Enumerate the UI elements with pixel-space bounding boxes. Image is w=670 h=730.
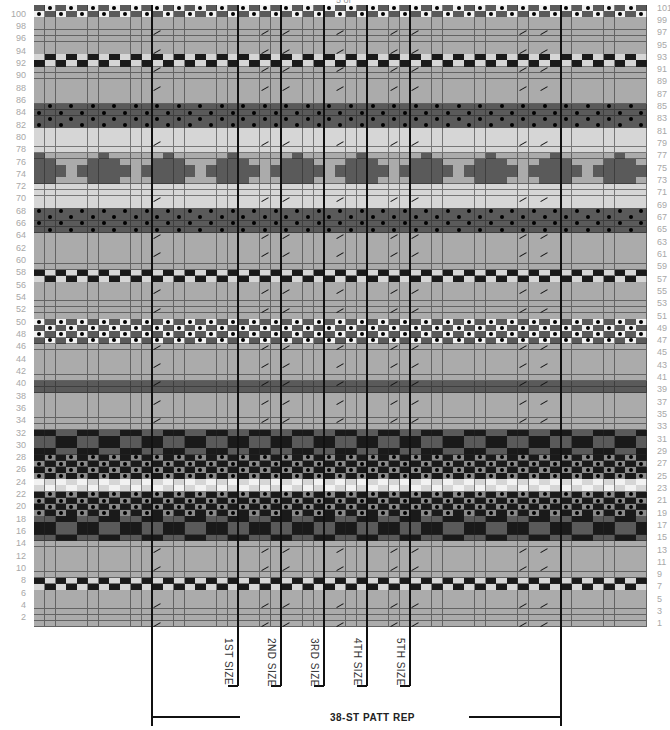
contrast-stitch-dot-icon (371, 104, 375, 108)
contrast-stitch-dot-icon (575, 221, 579, 225)
contrast-stitch-dot-icon (478, 505, 482, 509)
decrease-slash-icon (336, 548, 344, 553)
row-number-label: 22 (6, 490, 26, 499)
decrease-slash-icon (336, 603, 344, 608)
row-number-label: 45 (657, 348, 670, 357)
row-number-label: 58 (6, 268, 26, 277)
contrast-stitch-dot-icon (371, 326, 375, 330)
decrease-slash-icon (261, 234, 269, 239)
contrast-stitch-dot-icon (327, 117, 331, 121)
chart-cell (249, 621, 260, 628)
chart-cell (34, 621, 45, 628)
row-number-label: 35 (657, 410, 670, 419)
decrease-slash-icon (390, 418, 398, 423)
contrast-stitch-dot-icon (521, 228, 525, 232)
contrast-stitch-dot-icon (360, 209, 364, 213)
contrast-stitch-dot-icon (629, 326, 633, 330)
decrease-slash-icon (154, 86, 162, 91)
decrease-slash-icon (154, 400, 162, 405)
contrast-stitch-dot-icon (564, 338, 568, 342)
decrease-slash-icon (519, 252, 527, 257)
contrast-stitch-dot-icon (575, 209, 579, 213)
contrast-stitch-dot-icon (618, 511, 622, 515)
contrast-stitch-dot-icon (629, 505, 633, 509)
repeat-bracket-line (151, 716, 240, 718)
contrast-stitch-dot-icon (510, 111, 514, 115)
contrast-stitch-dot-icon (607, 326, 611, 330)
decrease-slash-icon (283, 603, 291, 608)
contrast-stitch-dot-icon (349, 338, 353, 342)
decrease-slash-icon (336, 566, 344, 571)
decrease-slash-icon (336, 308, 344, 313)
contrast-stitch-dot-icon (209, 320, 213, 324)
decrease-slash-icon (519, 308, 527, 313)
contrast-stitch-dot-icon (371, 455, 375, 459)
contrast-stitch-dot-icon (231, 499, 235, 503)
contrast-stitch-dot-icon (360, 320, 364, 324)
contrast-stitch-dot-icon (510, 12, 514, 16)
contrast-stitch-dot-icon (532, 320, 536, 324)
contrast-stitch-dot-icon (403, 221, 407, 225)
chart-grid (34, 5, 647, 627)
size-label-4: 4TH SIZE (352, 638, 363, 686)
decrease-slash-icon (261, 603, 269, 608)
decrease-slash-icon (390, 603, 398, 608)
decrease-slash-icon (390, 289, 398, 294)
contrast-stitch-dot-icon (209, 12, 213, 16)
contrast-stitch-dot-icon (381, 499, 385, 503)
decrease-slash-icon (412, 67, 420, 72)
contrast-stitch-dot-icon (629, 338, 633, 342)
contrast-stitch-dot-icon (360, 511, 364, 515)
contrast-stitch-dot-icon (543, 338, 547, 342)
contrast-stitch-dot-icon (91, 338, 95, 342)
row-number-label: 24 (6, 478, 26, 487)
contrast-stitch-dot-icon (37, 462, 41, 466)
decrease-slash-icon (261, 622, 269, 627)
contrast-stitch-dot-icon (80, 499, 84, 503)
decrease-slash-icon (390, 234, 398, 239)
row-number-label: 92 (6, 59, 26, 68)
contrast-stitch-dot-icon (134, 455, 138, 459)
decrease-slash-icon (412, 30, 420, 35)
contrast-stitch-dot-icon (629, 6, 633, 10)
contrast-stitch-dot-icon (37, 474, 41, 478)
row-number-label: 42 (6, 367, 26, 376)
contrast-stitch-dot-icon (618, 111, 622, 115)
row-number-label: 75 (657, 164, 670, 173)
contrast-stitch-dot-icon (586, 104, 590, 108)
contrast-stitch-dot-icon (145, 111, 149, 115)
row-number-label: 32 (6, 429, 26, 438)
contrast-stitch-dot-icon (424, 123, 428, 127)
chart-cell (475, 621, 486, 628)
contrast-stitch-dot-icon (145, 474, 149, 478)
contrast-stitch-dot-icon (134, 6, 138, 10)
contrast-stitch-dot-icon (145, 123, 149, 127)
decrease-slash-icon (412, 566, 420, 571)
chart-cell (378, 621, 389, 628)
contrast-stitch-dot-icon (166, 320, 170, 324)
row-number-label: 52 (6, 305, 26, 314)
decrease-slash-icon (154, 381, 162, 386)
contrast-stitch-dot-icon (177, 455, 181, 459)
contrast-stitch-dot-icon (155, 326, 159, 330)
row-number-label: 39 (657, 385, 670, 394)
contrast-stitch-dot-icon (586, 215, 590, 219)
contrast-stitch-dot-icon (639, 332, 643, 336)
contrast-stitch-dot-icon (177, 326, 181, 330)
contrast-stitch-dot-icon (134, 326, 138, 330)
contrast-stitch-dot-icon (48, 6, 52, 10)
contrast-stitch-dot-icon (489, 499, 493, 503)
decrease-slash-icon (283, 381, 291, 386)
contrast-stitch-dot-icon (166, 221, 170, 225)
contrast-stitch-dot-icon (241, 104, 245, 108)
contrast-stitch-dot-icon (435, 455, 439, 459)
contrast-stitch-dot-icon (155, 215, 159, 219)
contrast-stitch-dot-icon (435, 215, 439, 219)
contrast-stitch-dot-icon (478, 326, 482, 330)
row-number-label: 38 (6, 392, 26, 401)
contrast-stitch-dot-icon (500, 338, 504, 342)
row-number-label: 73 (657, 176, 670, 185)
row-number-label: 93 (657, 53, 670, 62)
contrast-stitch-dot-icon (629, 468, 633, 472)
contrast-stitch-dot-icon (123, 499, 127, 503)
